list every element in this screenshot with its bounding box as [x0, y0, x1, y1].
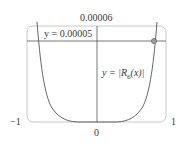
x-max-label: 1 [171, 117, 176, 127]
intersection-marker [151, 38, 156, 43]
curve-label: y = |R6(x)| [102, 68, 144, 82]
plot-frame [27, 26, 166, 122]
x-zero-label: 0 [94, 128, 99, 138]
hline-label: y = 0.00005 [44, 29, 92, 39]
curve-label-prefix: y = | [102, 67, 121, 78]
curve-label-suffix: (x)| [131, 67, 145, 78]
x-min-label: −1 [10, 117, 21, 127]
y-max-label: 0.00006 [80, 13, 113, 23]
